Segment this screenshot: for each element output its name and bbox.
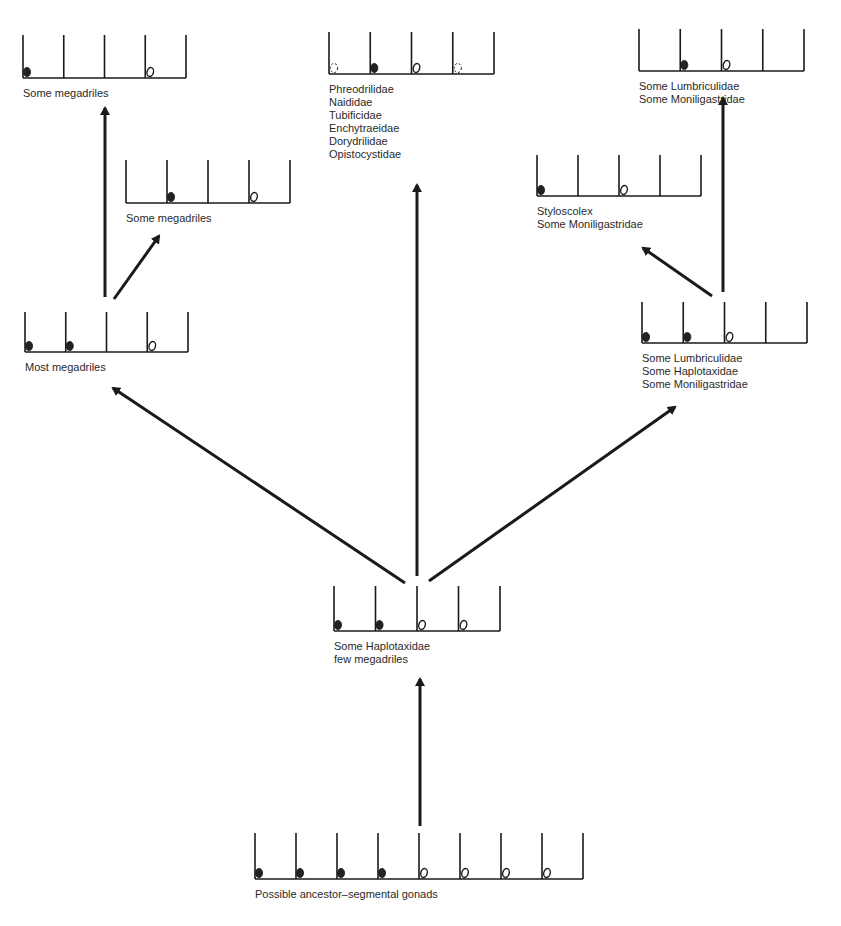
testis-filled-icon [296, 868, 303, 877]
testis-filled-icon [684, 332, 691, 341]
taxon-label: Some Haplotaxidae [642, 365, 748, 378]
node-label-top-left: Some megadriles [23, 87, 109, 100]
ovary-open-icon [420, 868, 429, 879]
taxon-label: Naididae [329, 96, 401, 109]
gonad-phylogeny-diagram: Some megadrilesPhreodrilidaeNaididaeTubi… [0, 0, 841, 926]
node-top-right [639, 29, 804, 71]
segment-boxes-layer [23, 29, 807, 879]
ovary-open-icon [722, 60, 731, 71]
node-label-top-right: Some LumbriculidaeSome Moniligastridae [639, 80, 745, 106]
arrow-mid-right-to-mid-right-upper [643, 248, 712, 296]
node-label-mid-right: Some LumbriculidaeSome HaplotaxidaeSome … [642, 352, 748, 391]
lost-gonad-dashed-icon [454, 63, 461, 72]
diagram-canvas [0, 0, 841, 926]
ovary-open-icon [250, 192, 259, 203]
ovary-open-icon [412, 63, 421, 74]
arrow-center-to-mid-right [429, 407, 675, 581]
taxon-label: Some megadriles [23, 87, 109, 100]
testis-filled-icon [23, 67, 30, 76]
node-top-center [329, 32, 494, 74]
ovary-open-icon [543, 868, 552, 879]
node-mid-left-upper [126, 160, 290, 203]
ovary-open-icon [148, 341, 157, 352]
lost-gonad-dashed-icon [330, 63, 337, 72]
node-ancestor [255, 833, 583, 879]
taxon-label: Some Moniligastridae [639, 93, 745, 106]
taxon-label: Dorydrilidae [329, 135, 401, 148]
node-label-mid-right-upper: StyloscolexSome Moniligastridae [537, 205, 643, 231]
testis-filled-icon [66, 341, 73, 350]
testis-filled-icon [371, 63, 378, 72]
taxon-label: Tubificidae [329, 109, 401, 122]
taxon-label: Most megadriles [25, 361, 106, 374]
taxon-label: Some Haplotaxidae [334, 640, 430, 653]
testis-filled-icon [334, 620, 341, 629]
taxon-label: Opistocystidae [329, 148, 401, 161]
testis-filled-icon [681, 60, 688, 69]
ovary-open-icon [461, 868, 470, 879]
ovary-open-icon [459, 620, 468, 631]
ovary-open-icon [502, 868, 511, 879]
testis-filled-icon [337, 868, 344, 877]
taxon-label: Some Moniligastridae [642, 378, 748, 391]
ovary-open-icon [418, 620, 427, 631]
testis-filled-icon [642, 332, 649, 341]
arrow-mid-left-to-mid-left-upper [114, 236, 159, 299]
ovary-open-icon [725, 332, 734, 343]
taxon-label: Enchytraeidae [329, 122, 401, 135]
node-top-left [23, 35, 186, 78]
node-center [334, 586, 500, 631]
taxon-label: few megadriles [334, 653, 430, 666]
testis-filled-icon [537, 185, 544, 194]
taxon-label: Styloscolex [537, 205, 643, 218]
node-mid-right [642, 302, 807, 343]
node-label-center: Some Haplotaxidaefew megadriles [334, 640, 430, 666]
taxon-label: Possible ancestor–segmental gonads [255, 888, 438, 901]
taxon-label: Some megadriles [126, 212, 212, 225]
node-mid-left [25, 312, 188, 352]
node-mid-right-upper [537, 155, 701, 196]
ovary-open-icon [146, 67, 155, 78]
testis-filled-icon [167, 192, 174, 201]
node-label-top-center: PhreodrilidaeNaididaeTubificidaeEnchytra… [329, 83, 401, 161]
node-label-mid-left: Most megadriles [25, 361, 106, 374]
testis-filled-icon [376, 620, 383, 629]
ovary-open-icon [620, 185, 629, 196]
node-label-mid-left-upper: Some megadriles [126, 212, 212, 225]
taxon-label: Phreodrilidae [329, 83, 401, 96]
testis-filled-icon [25, 341, 32, 350]
arrow-center-to-mid-left [113, 388, 405, 583]
taxon-label: Some Moniligastridae [537, 218, 643, 231]
node-label-ancestor: Possible ancestor–segmental gonads [255, 888, 438, 901]
testis-filled-icon [378, 868, 385, 877]
testis-filled-icon [255, 868, 262, 877]
taxon-label: Some Lumbriculidae [639, 80, 745, 93]
taxon-label: Some Lumbriculidae [642, 352, 748, 365]
